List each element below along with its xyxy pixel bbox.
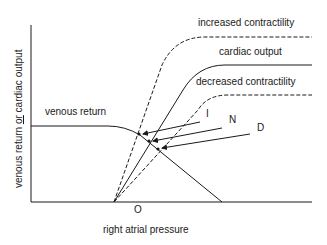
label-origin: O	[134, 204, 142, 215]
label-cardiac-output: cardiac output	[219, 46, 282, 57]
label-point-i: I	[206, 108, 209, 119]
y-axis-label: venous return or cardiac output	[13, 49, 24, 188]
venous-return-curve	[31, 126, 222, 202]
arrow-d	[162, 134, 250, 148]
label-venous-return: venous return	[45, 106, 106, 117]
x-axis-label: right atrial pressure	[103, 224, 189, 235]
label-increased-contractility: increased contractility	[198, 17, 294, 28]
point-i	[137, 132, 140, 135]
label-point-n: N	[229, 114, 236, 125]
y-label-part-3: cardiac output	[13, 49, 24, 115]
increased-contractility-curve	[114, 37, 312, 202]
y-label-part-1: venous return	[13, 124, 24, 188]
point-n	[147, 139, 150, 142]
label-point-d: D	[257, 122, 264, 133]
point-d	[156, 147, 159, 150]
decreased-contractility-curve	[114, 95, 312, 202]
arrow-i	[143, 122, 200, 134]
label-decreased-contractility: decreased contractility	[196, 76, 296, 87]
cardiac-venous-diagram: increased contractility cardiac output d…	[0, 0, 327, 245]
